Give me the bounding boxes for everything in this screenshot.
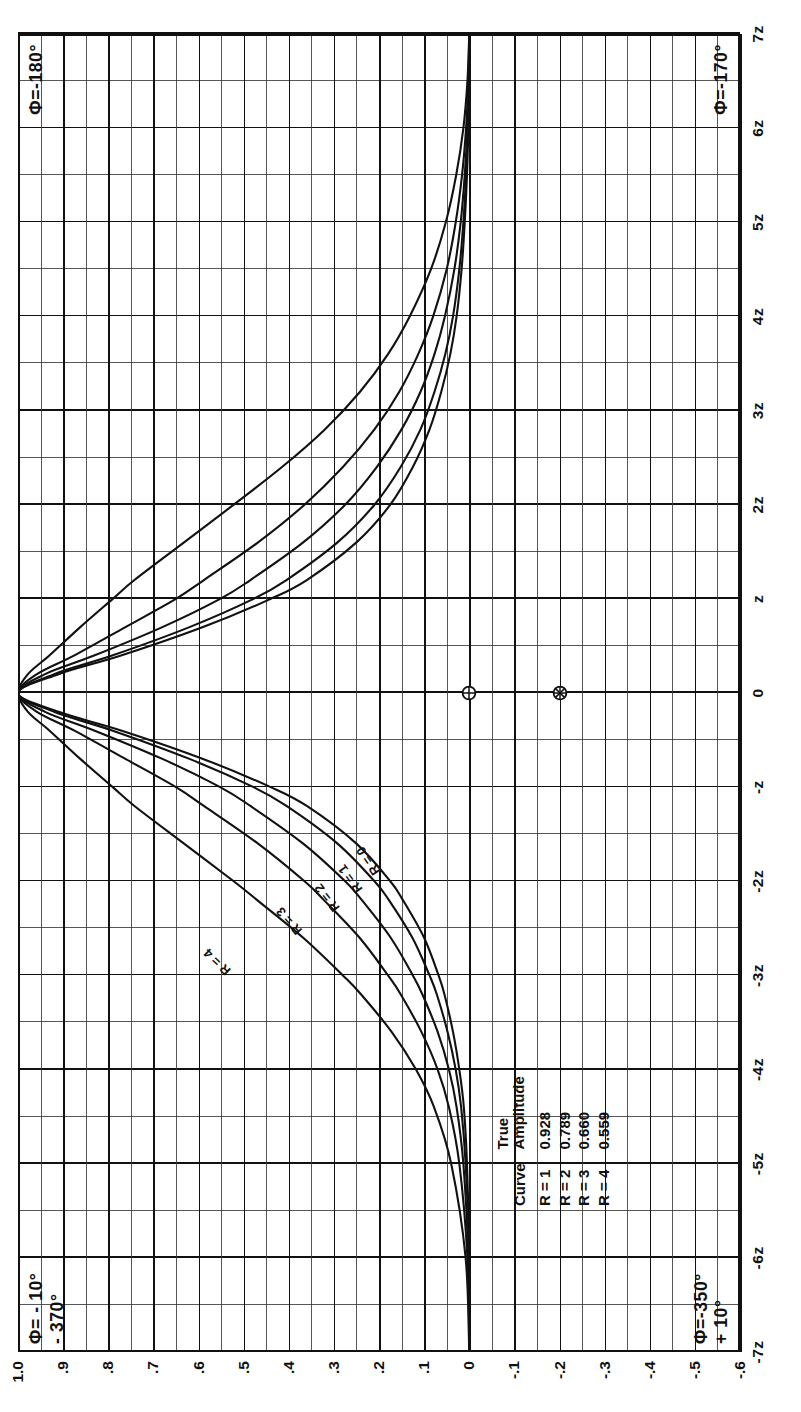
y-tick-14: -.4: [641, 1361, 659, 1412]
y-tick-16: -.6: [731, 1361, 749, 1412]
phase-tl-line2: - 370°: [47, 1273, 68, 1344]
gridline: [740, 34, 742, 1352]
legend-row-curve: R = 1: [534, 1149, 554, 1206]
y-tick-1: .9: [54, 1361, 72, 1412]
legend-header-curve: Curve: [494, 1149, 534, 1206]
y-tick-11: -.1: [505, 1361, 523, 1412]
legend-row: R = 10.928: [534, 1062, 554, 1206]
y-tick-2: .8: [99, 1361, 117, 1412]
y-tick-15: -.5: [686, 1361, 704, 1412]
y-tick-9: .1: [415, 1361, 433, 1412]
legend-row-curve: R = 2: [553, 1149, 573, 1206]
x-tick-4: -3z: [749, 964, 767, 987]
plot-frame: [18, 34, 740, 1352]
x-tick-11: 4z: [749, 308, 767, 325]
legend-row-amplitude: 0.789: [553, 1062, 573, 1149]
phase-tr-line1: Φ=-180°: [26, 44, 47, 115]
x-tick-9: 2z: [749, 496, 767, 513]
legend-body: R = 10.928R = 20.789R = 30.660R = 40.559: [534, 1062, 612, 1206]
phase-annotation-bottom-left: Φ=-350° + 10°: [691, 1273, 732, 1344]
y-tick-4: .6: [190, 1361, 208, 1412]
x-tick-1: -6z: [749, 1246, 767, 1269]
y-tick-13: -.3: [596, 1361, 614, 1412]
y-tick-5: .5: [235, 1361, 253, 1412]
y-tick-6: .4: [280, 1361, 298, 1412]
chart-canvas: R = 0R = 1R = 2R = 3R = 4 Φ= - 10° - 370…: [0, 0, 801, 1412]
y-tick-8: .2: [370, 1361, 388, 1412]
y-tick-7: .3: [325, 1361, 343, 1412]
x-tick-7: 0: [749, 688, 767, 697]
phase-annotation-bottom-right: Φ=-170°: [711, 44, 732, 115]
legend-row-amplitude: 0.928: [534, 1062, 554, 1149]
phase-annotation-top-left: Φ= - 10° - 370°: [26, 1273, 67, 1344]
legend-table: Curve True Amplitude R = 10.928R = 20.78…: [494, 1062, 612, 1206]
x-tick-14: 7z: [749, 25, 767, 42]
legend-row-curve: R = 3: [573, 1149, 593, 1206]
legend-row-amplitude: 0.660: [573, 1062, 593, 1149]
legend-header-amplitude-line1: True: [495, 1076, 511, 1149]
legend-header-amplitude: True Amplitude: [494, 1062, 534, 1149]
legend-table-grid: Curve True Amplitude R = 10.928R = 20.78…: [494, 1062, 612, 1206]
x-tick-12: 5z: [749, 214, 767, 231]
x-tick-8: z: [749, 595, 767, 603]
x-tick-13: 6z: [749, 119, 767, 136]
phase-br-line1: Φ=-170°: [711, 44, 732, 115]
phase-tl-line1: Φ= - 10°: [26, 1273, 47, 1344]
x-tick-6: -z: [749, 780, 767, 794]
legend-row: R = 20.789: [553, 1062, 573, 1206]
legend-row-amplitude: 0.559: [592, 1062, 612, 1149]
y-tick-12: -.2: [551, 1361, 569, 1412]
legend-header-amplitude-line2: Amplitude: [511, 1076, 527, 1149]
y-tick-10: 0: [460, 1361, 478, 1412]
phase-bl-line2: + 10°: [711, 1273, 732, 1344]
x-tick-5: -2z: [749, 870, 767, 893]
legend-row-curve: R = 4: [592, 1149, 612, 1206]
y-tick-3: .7: [144, 1361, 162, 1412]
plot-area: R = 0R = 1R = 2R = 3R = 4 Φ= - 10° - 370…: [18, 34, 740, 1352]
x-tick-2: -5z: [749, 1152, 767, 1175]
x-tick-10: 3z: [749, 402, 767, 419]
x-tick-0: -7z: [749, 1340, 767, 1363]
phase-annotation-top-right: Φ=-180°: [26, 44, 47, 115]
phase-bl-line1: Φ=-350°: [691, 1273, 712, 1344]
y-tick-0: 1.0: [9, 1361, 27, 1412]
legend-header-row: Curve True Amplitude: [494, 1062, 534, 1206]
legend-row: R = 30.660: [573, 1062, 593, 1206]
legend-row: R = 40.559: [592, 1062, 612, 1206]
x-tick-3: -4z: [749, 1058, 767, 1081]
